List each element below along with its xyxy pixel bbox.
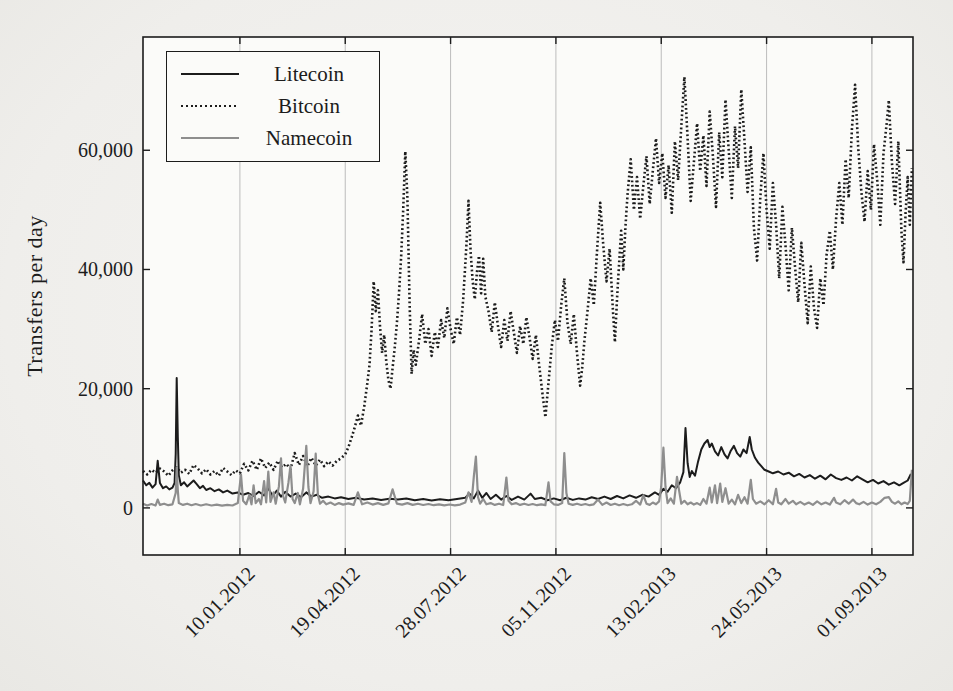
legend-row-namecoin: Namecoin bbox=[167, 125, 379, 151]
transfers-per-day-chart: Transfers per day 020,00040,00060,000 10… bbox=[0, 0, 953, 691]
litecoin-line-sample bbox=[181, 73, 239, 76]
namecoin-line-sample bbox=[181, 137, 239, 140]
chart-canvas bbox=[0, 0, 953, 691]
legend-row-litecoin: Litecoin bbox=[167, 61, 379, 87]
y-tick-label: 60,000 bbox=[38, 139, 133, 161]
y-tick-label: 20,000 bbox=[38, 378, 133, 400]
legend-label-litecoin: Litecoin bbox=[239, 62, 379, 87]
bitcoin-line-sample bbox=[181, 105, 239, 108]
legend-label-namecoin: Namecoin bbox=[239, 126, 379, 151]
y-tick-label: 40,000 bbox=[38, 258, 133, 280]
legend-label-bitcoin: Bitcoin bbox=[239, 94, 379, 119]
legend: Litecoin Bitcoin Namecoin bbox=[166, 51, 380, 162]
y-tick-label: 0 bbox=[38, 497, 133, 519]
legend-row-bitcoin: Bitcoin bbox=[167, 93, 379, 119]
series-line-litecoin bbox=[143, 378, 911, 501]
